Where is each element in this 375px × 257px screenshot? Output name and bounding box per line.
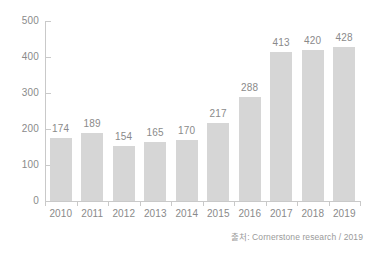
bar-value-label: 170 <box>167 124 207 137</box>
bar-value-label: 288 <box>230 81 270 94</box>
bar <box>144 142 166 201</box>
bar <box>207 123 229 201</box>
x-axis-label: 2012 <box>108 207 140 221</box>
x-axis-label: 2018 <box>297 207 329 221</box>
bar <box>270 52 292 201</box>
bar <box>333 47 355 201</box>
bar-value-label: 189 <box>72 117 112 130</box>
bars-container: 174189154165170217288413420428 <box>45 21 360 201</box>
x-axis-label: 2015 <box>203 207 235 221</box>
y-tick-label: 0 <box>0 194 39 207</box>
x-axis-label: 2014 <box>171 207 203 221</box>
x-axis-label: 2011 <box>77 207 109 221</box>
bar-slot: 154 <box>108 21 140 201</box>
bar-value-label: 217 <box>198 107 238 120</box>
x-tick-mark <box>203 201 204 206</box>
x-tick-mark <box>360 201 361 206</box>
x-axis-label: 2017 <box>266 207 298 221</box>
bar-slot: 217 <box>203 21 235 201</box>
bar <box>50 138 72 201</box>
y-tick-label: 100 <box>0 158 39 171</box>
x-tick-mark <box>45 201 46 206</box>
x-axis-label: 2019 <box>329 207 361 221</box>
x-axis-label: 2016 <box>234 207 266 221</box>
y-tick-label: 300 <box>0 86 39 99</box>
x-tick-mark <box>108 201 109 206</box>
bar <box>239 97 261 201</box>
bar-slot: 420 <box>297 21 329 201</box>
bar-slot: 413 <box>266 21 298 201</box>
bar-slot: 165 <box>140 21 172 201</box>
x-tick-mark <box>266 201 267 206</box>
y-tick-label: 200 <box>0 122 39 135</box>
x-tick-mark <box>297 201 298 206</box>
bar-chart: 0100200300400500 17418915416517021728841… <box>0 0 375 257</box>
x-tick-mark <box>77 201 78 206</box>
bar-slot: 174 <box>45 21 77 201</box>
bar <box>81 133 103 201</box>
x-tick-mark <box>234 201 235 206</box>
bar-slot: 189 <box>77 21 109 201</box>
bar <box>176 140 198 201</box>
bar <box>113 146 135 201</box>
bar-slot: 428 <box>329 21 361 201</box>
bar <box>302 50 324 201</box>
bar-value-label: 428 <box>324 31 364 44</box>
x-tick-mark <box>329 201 330 206</box>
source-note: 출처: Cornerstone research / 2019 <box>231 231 363 243</box>
y-tick-label: 400 <box>0 50 39 63</box>
y-tick-label: 500 <box>0 14 39 27</box>
x-axis-label: 2013 <box>140 207 172 221</box>
x-tick-mark <box>171 201 172 206</box>
x-tick-mark <box>140 201 141 206</box>
x-axis-label: 2010 <box>45 207 77 221</box>
